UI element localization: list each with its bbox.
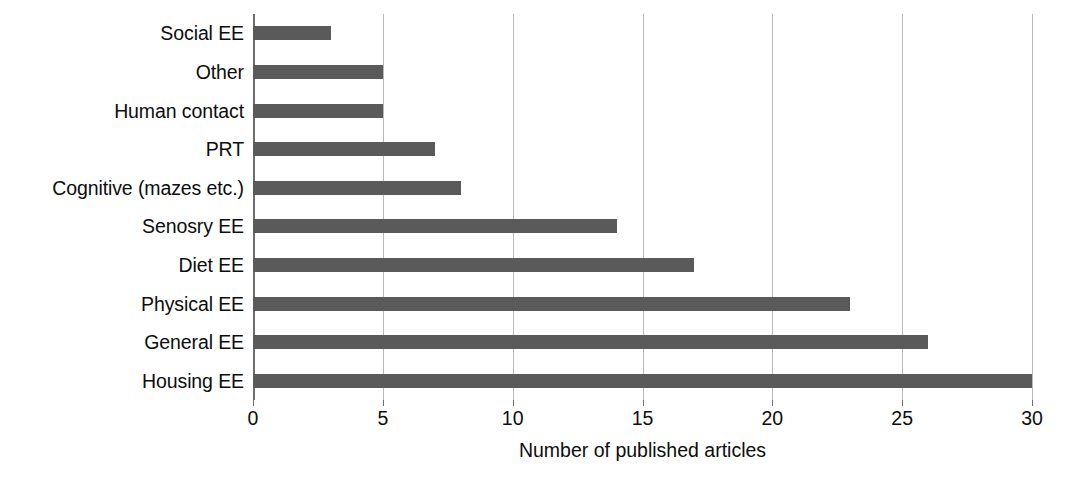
category-label: Physical EE [0, 293, 244, 315]
category-label: Senosry EE [0, 215, 244, 237]
gridline-30 [1032, 14, 1033, 400]
x-tick-label: 30 [1021, 406, 1043, 430]
value-axis: 051015202530 [253, 406, 1032, 432]
x-tick-label: 25 [891, 406, 913, 430]
x-tick-label: 15 [632, 406, 654, 430]
bar-chart: Social EEOtherHuman contactPRTCognitive … [0, 0, 1077, 481]
category-label: Diet EE [0, 254, 244, 276]
bar [253, 65, 383, 79]
x-tick-label: 10 [502, 406, 524, 430]
bar-series [253, 14, 1032, 400]
category-axis: Social EEOtherHuman contactPRTCognitive … [0, 14, 244, 400]
category-label: Social EE [0, 22, 244, 44]
bar [253, 258, 694, 272]
bar [253, 181, 461, 195]
x-tick-label: 5 [377, 406, 388, 430]
category-label: PRT [0, 138, 244, 160]
bar [253, 26, 331, 40]
bar [253, 219, 617, 233]
bar [253, 374, 1032, 388]
category-label: General EE [0, 331, 244, 353]
plot-area [253, 14, 1032, 400]
x-tick-label: 0 [248, 406, 259, 430]
bar [253, 335, 928, 349]
bar [253, 142, 435, 156]
bar [253, 104, 383, 118]
category-label: Other [0, 61, 244, 83]
category-label: Housing EE [0, 370, 244, 392]
bar [253, 297, 850, 311]
x-tick-label: 20 [761, 406, 783, 430]
category-label: Human contact [0, 100, 244, 122]
x-axis-title: Number of published articles [253, 438, 1032, 462]
category-label: Cognitive (mazes etc.) [0, 177, 244, 199]
